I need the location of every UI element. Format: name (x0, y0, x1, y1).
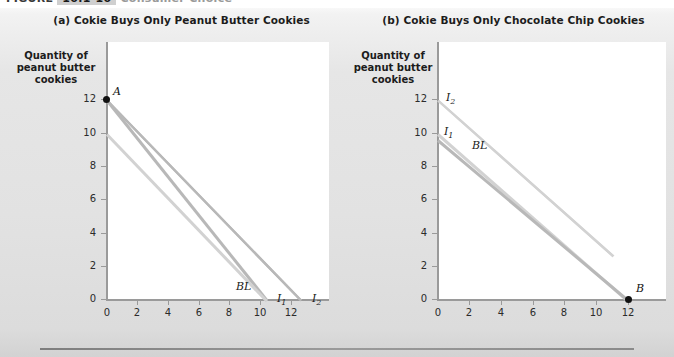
panel-b-ytick-10 (432, 133, 437, 134)
panel-b-ytick-8 (432, 166, 437, 167)
panel-a-xtick-10 (260, 300, 261, 305)
panel-b-ytick-label-8: 8 (405, 160, 427, 171)
panel-b-y-axis (437, 42, 439, 301)
panel-a-x-axis (106, 299, 329, 301)
panel-a-xtick-12 (291, 300, 292, 305)
panel-a-label-i1: I1 (277, 292, 286, 307)
panel-b-ytick-label-12: 12 (405, 93, 427, 104)
panel-a-xtick-6 (199, 300, 200, 305)
panel-a-xtick-label-8: 8 (221, 307, 237, 318)
panel-a-point-a-dot (103, 96, 110, 103)
panel-a-ytick-label-6: 6 (74, 193, 96, 204)
panel-a-ytick-2 (101, 266, 106, 267)
panel-a-ytick-4 (101, 233, 106, 234)
panel-b-xtick-label-0: 0 (430, 307, 446, 318)
panel-b-xtick-label-12: 12 (620, 307, 636, 318)
panel-a-ytick-label-0: 0 (74, 293, 96, 304)
panel-a-xtick-label-0: 0 (99, 307, 115, 318)
panel-b-point-b-label: B (636, 282, 644, 295)
panel-a-ytick-label-10: 10 (74, 127, 96, 138)
panel-a-xtick-2 (137, 300, 138, 305)
panel-a-y-axis (106, 42, 108, 301)
figure-banner: FIGURE10.1-10Consumer Choice (0, 0, 674, 8)
panel-b-label-i2: I2 (446, 91, 455, 106)
panel-a-ytick-label-8: 8 (74, 160, 96, 171)
panel-b-ytick-4 (432, 233, 437, 234)
panel-a-ytick-0 (101, 299, 106, 300)
figure-body: (a) Cokie Buys Only Peanut Butter Cookie… (0, 8, 674, 334)
panel-b-ytick-0 (432, 299, 437, 300)
panel-b-point-b-dot (625, 296, 632, 303)
panel-b-xtick-8 (564, 300, 565, 305)
panel-b-ytick-2 (432, 266, 437, 267)
panel-a-xtick-4 (168, 300, 169, 305)
panel-a-xtick-label-4: 4 (160, 307, 176, 318)
panel-b-xtick-label-2: 2 (461, 307, 477, 318)
panel-a-title: (a) Cokie Buys Only Peanut Butter Cookie… (0, 14, 337, 26)
panel-b-ytick-label-4: 4 (405, 227, 427, 238)
panel-a-ytick-10 (101, 133, 106, 134)
panel-b-xtick-4 (501, 300, 502, 305)
panel-a-ytick-8 (101, 166, 106, 167)
panel-a-y-axis-label: Quantity of peanut butter cookies (8, 50, 104, 85)
panel-a-ytick-label-12: 12 (74, 93, 96, 104)
panel-a-xtick-label-2: 2 (129, 307, 145, 318)
figure-banner-text: FIGURE10.1-10Consumer Choice (6, 0, 232, 5)
panel-b-ytick-label-10: 10 (405, 127, 427, 138)
panel-a-ytick-6 (101, 199, 106, 200)
panel-b-ytick-label-0: 0 (405, 293, 427, 304)
panel-b-ytick-label-2: 2 (405, 260, 427, 271)
bottom-divider (40, 348, 634, 350)
panel-b-xtick-6 (533, 300, 534, 305)
panel-a-xtick-label-10: 10 (252, 307, 268, 318)
panel-b-label-i1: I1 (444, 125, 453, 140)
panel-b-xtick-label-10: 10 (588, 307, 604, 318)
panel-b-xtick-label-6: 6 (525, 307, 541, 318)
panel-a-ytick-label-2: 2 (74, 260, 96, 271)
panel-b-y-axis-label: Quantity of peanut butter cookies (345, 50, 441, 85)
panel-b-ytick-12 (432, 99, 437, 100)
panel-b-xtick-2 (469, 300, 470, 305)
panel-a: (a) Cokie Buys Only Peanut Butter Cookie… (0, 8, 337, 334)
panel-b-xtick-10 (596, 300, 597, 305)
figure-title: Consumer Choice (120, 0, 232, 5)
panel-b-label-bl: BL (472, 139, 487, 152)
panel-a-label-bl: BL (236, 280, 251, 293)
panel-b: (b) Cokie Buys Only Chocolate Chip Cooki… (337, 8, 674, 334)
panel-a-point-a-label: A (113, 85, 121, 98)
figure-number: 10.1-10 (57, 0, 116, 5)
panel-a-ytick-label-4: 4 (74, 227, 96, 238)
panel-a-label-i2: I2 (312, 292, 321, 307)
panel-b-ytick-6 (432, 199, 437, 200)
panel-b-ytick-label-6: 6 (405, 193, 427, 204)
panel-a-xtick-label-12: 12 (283, 307, 299, 318)
panel-a-xtick-8 (229, 300, 230, 305)
panel-a-xtick-label-6: 6 (191, 307, 207, 318)
panel-b-xtick-label-8: 8 (556, 307, 572, 318)
panel-b-title: (b) Cokie Buys Only Chocolate Chip Cooki… (337, 14, 674, 26)
panel-b-xtick-label-4: 4 (493, 307, 509, 318)
figure-label: FIGURE (6, 0, 53, 5)
